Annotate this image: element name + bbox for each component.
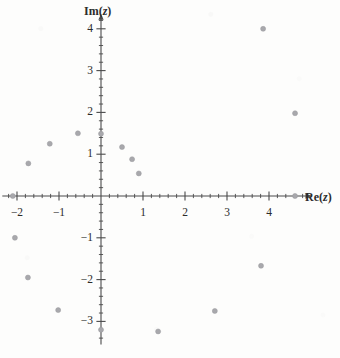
y-tick-label: −1 (73, 232, 93, 244)
data-point (212, 308, 217, 313)
data-point (261, 26, 266, 31)
data-point (293, 194, 298, 199)
data-point (120, 145, 125, 150)
data-point (136, 171, 141, 176)
data-point (56, 308, 61, 313)
data-points-group (10, 26, 297, 334)
data-point (47, 141, 52, 146)
data-point (130, 157, 135, 162)
plot-canvas (0, 0, 340, 358)
data-point (75, 131, 80, 136)
data-point (293, 111, 298, 116)
x-tick-label: 2 (175, 207, 195, 219)
x-tick-label: 1 (133, 207, 153, 219)
data-point (10, 194, 15, 199)
imaginary-axis-label-suffix: ) (107, 4, 111, 18)
data-point (26, 161, 31, 166)
axes-group (2, 14, 311, 344)
y-tick-label: 3 (73, 65, 93, 77)
x-tick-label: 3 (217, 207, 237, 219)
y-tick-label: 1 (73, 148, 93, 160)
y-tick-label: 2 (73, 106, 93, 118)
y-tick-label: 4 (73, 23, 93, 35)
x-tick-label: 4 (259, 207, 279, 219)
real-axis-label-prefix: Re( (305, 190, 323, 204)
y-tick-label: −3 (73, 315, 93, 327)
data-point (25, 275, 30, 280)
real-axis-label: Re(z) (305, 191, 332, 203)
complex-plane-scatter-figure: Im(z) Re(z) −2−112344321−1−2−3 (0, 0, 340, 358)
tick-marks-group (9, 20, 303, 338)
data-point (156, 329, 161, 334)
y-tick-label: −2 (73, 274, 93, 286)
imaginary-axis-label-prefix: Im( (84, 4, 103, 18)
data-point (99, 131, 104, 136)
x-tick-label: −2 (7, 207, 27, 219)
real-axis-label-suffix: ) (328, 190, 332, 204)
imaginary-axis-label: Im(z) (84, 5, 111, 17)
x-tick-label: −1 (49, 207, 69, 219)
data-point (12, 235, 17, 240)
data-point (259, 263, 264, 268)
data-point (99, 327, 104, 332)
